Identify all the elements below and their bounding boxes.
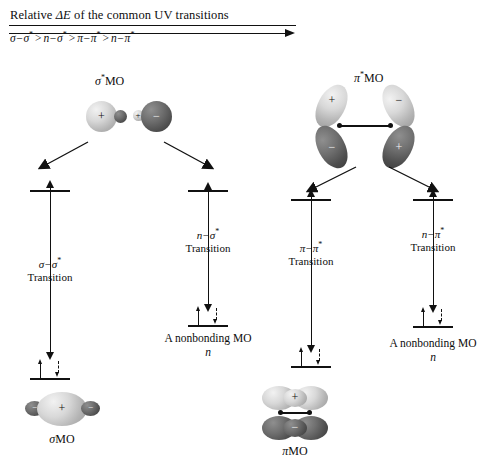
pi-mo-bond-line <box>281 412 309 414</box>
pi-electron-down-head <box>316 360 320 365</box>
pi-transition-star: * <box>318 240 322 249</box>
title-suffix: of the common UV transitions <box>71 8 229 22</box>
pi-electron-up-head <box>299 347 303 352</box>
pi-mo-node-left <box>278 410 283 415</box>
pi-mo-label: πMO <box>270 444 320 459</box>
pi-star-node-right <box>388 123 393 128</box>
order-star-4: * <box>130 30 134 39</box>
energy-axis-arrow-head <box>285 29 295 37</box>
nb-left-electron-down-head <box>213 319 217 324</box>
pi-electron-up-line <box>301 351 302 366</box>
nb-right-caption: A nonbonding MO <box>390 337 477 349</box>
pi-mo-top-sign: + <box>283 390 307 405</box>
sigma-mo-center-sign: + <box>37 401 87 416</box>
sigma-star-arrow-right <box>160 140 222 176</box>
pi-star-bottom-left-sign: − <box>320 140 344 155</box>
pi-mo-node-right <box>307 410 312 415</box>
sigma-transition-arrow-head-down <box>46 352 54 360</box>
pi-star-node-left <box>337 123 342 128</box>
sigma-mo-text: MO <box>55 432 74 446</box>
nb-left-caption: A nonbonding MO <box>165 332 252 344</box>
pi-star-bond-line <box>340 125 390 127</box>
nb-right-electron-up-line <box>423 311 424 326</box>
pi-star-top-left-sign: + <box>320 93 344 108</box>
sigma-transition-symbol: σ−σ <box>39 258 57 270</box>
sigma-star-arrow-left <box>32 140 92 176</box>
n-sigma-transition-word: Transition <box>186 242 231 254</box>
title-delta-e: ΔE <box>56 8 71 22</box>
pi-mo-bottom-sign: − <box>283 420 307 435</box>
n-sigma-transition-symbol: n−σ <box>197 229 215 241</box>
sigma-transition-arrow-head-up <box>46 180 54 188</box>
sigma-mo-right-sign: − <box>81 402 100 412</box>
nb-left-electron-up-head <box>196 306 200 311</box>
pi-transition-arrow-line <box>311 194 312 351</box>
nonbonding-mo-label-left: A nonbonding MO n <box>152 331 264 360</box>
nb-left-symbol: n <box>205 346 211 358</box>
page-title: Relative ΔE of the common UV transitions <box>10 8 229 23</box>
pi-transition-arrow-head-up <box>307 189 315 197</box>
n-sigma-transition-star: * <box>215 227 219 236</box>
n-pi-transition-word: Transition <box>411 241 456 253</box>
n-pi-transition-arrow-head-down <box>429 305 437 313</box>
nb-right-symbol: n <box>430 351 436 363</box>
level-nonbonding-right <box>413 326 453 328</box>
level-pi-bonding <box>291 366 331 368</box>
n-pi-transition-symbol: n−π <box>422 228 440 240</box>
nb-right-electron-down-head <box>438 320 442 325</box>
n-sigma-star-transition-label: n−σ* Transition <box>168 227 248 256</box>
n-pi-transition-arrow-head-up <box>429 189 437 197</box>
energy-axis-arrow-line <box>9 33 287 34</box>
pi-star-top-right-sign: − <box>387 93 411 108</box>
uv-transitions-diagram: Relative ΔE of the common UV transitions… <box>0 0 495 469</box>
nb-right-electron-up-head <box>421 307 425 312</box>
nonbonding-mo-label-right: A nonbonding MO n <box>377 336 489 365</box>
pi-transition-arrow-head-down <box>307 345 315 353</box>
order-star-3: * <box>97 30 101 39</box>
pi-transition-symbol: π−π <box>300 242 318 254</box>
pi-pi-star-transition-label: π−π* Transition <box>271 240 351 269</box>
n-pi-transition-star: * <box>440 226 444 235</box>
sigma-sigma-star-transition-label: σ−σ* Transition <box>10 256 90 285</box>
sigma-electron-up-head <box>38 359 42 364</box>
n-pi-star-transition-label: n−π* Transition <box>393 226 473 255</box>
n-sigma-transition-arrow-head-up <box>204 182 212 190</box>
pi-star-arrow-right <box>385 165 447 201</box>
sigma-star-mo-text: MO <box>105 74 124 88</box>
sigma-electron-up-line <box>40 363 41 378</box>
pi-star-bottom-right-sign: + <box>387 140 411 155</box>
level-nonbonding-left <box>188 325 228 327</box>
sigma-star-left-sign: + <box>86 109 117 124</box>
pi-star-mo-label: π*MO <box>354 70 383 86</box>
n-sigma-transition-arrow-head-down <box>204 304 212 312</box>
sigma-electron-down-head <box>55 372 59 377</box>
nb-left-electron-up-line <box>198 310 199 325</box>
pi-transition-word: Transition <box>289 255 334 267</box>
sigma-transition-word: Transition <box>28 271 73 283</box>
sigma-star-mo-label: σ*MO <box>95 73 124 89</box>
pi-mo-text: MO <box>288 444 307 458</box>
sigma-transition-star: * <box>57 256 61 265</box>
title-prefix: Relative <box>10 8 56 22</box>
level-sigma-bonding <box>30 378 70 380</box>
sigma-mo-label: σMO <box>37 432 87 447</box>
pi-star-mo-text: MO <box>364 71 383 85</box>
title-underline <box>9 25 296 26</box>
sigma-star-right-sign: − <box>141 109 172 124</box>
sigma-star-left-small-lobe <box>114 110 127 123</box>
